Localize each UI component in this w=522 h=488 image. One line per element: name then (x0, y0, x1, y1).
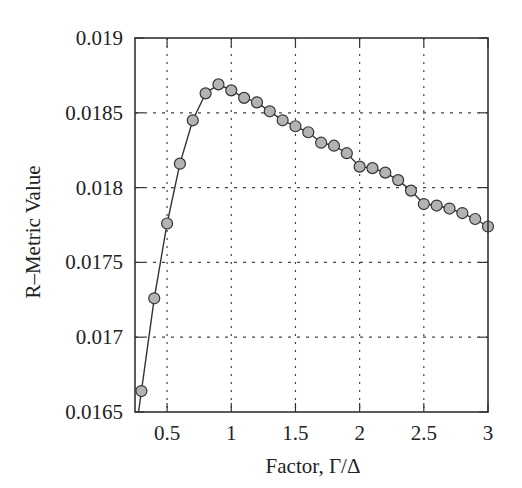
data-point-marker (444, 203, 455, 214)
y-tick-label: 0.019 (76, 26, 123, 50)
plot-frame (135, 38, 488, 412)
data-point-marker (393, 175, 404, 186)
data-point-marker (470, 214, 481, 225)
x-tick-label: 2.5 (411, 421, 437, 445)
r-metric-chart: 0.511.522.53 0.01650.0170.01750.0180.018… (0, 0, 522, 488)
grid-lines (135, 38, 488, 412)
y-tick-label: 0.0175 (65, 250, 123, 274)
data-point-marker (149, 293, 160, 304)
y-tick-label: 0.0185 (65, 101, 123, 125)
data-point-marker (316, 137, 327, 148)
data-point-marker (200, 88, 211, 99)
data-point-marker (174, 158, 185, 169)
x-tick-label: 2 (354, 421, 365, 445)
x-tick-label: 1.5 (282, 421, 308, 445)
y-tick-label: 0.0165 (65, 400, 123, 424)
data-point-marker (405, 185, 416, 196)
data-point-marker (277, 115, 288, 126)
data-point-marker (328, 140, 339, 151)
axis-ticks (135, 38, 488, 412)
data-point-marker (367, 163, 378, 174)
y-tick-label: 0.017 (76, 325, 123, 349)
data-point-marker (418, 199, 429, 210)
y-axis-title: R–Metric Value (21, 165, 45, 298)
x-tick-label: 1 (226, 421, 237, 445)
x-tick-label: 0.5 (154, 421, 180, 445)
data-point-marker (162, 218, 173, 229)
data-point-marker (226, 85, 237, 96)
data-point-marker (341, 148, 352, 159)
data-point-marker (354, 161, 365, 172)
data-point-marker (290, 121, 301, 132)
data-point-marker (431, 200, 442, 211)
data-point-marker (264, 106, 275, 117)
data-point-marker (303, 127, 314, 138)
y-tick-label: 0.018 (76, 176, 123, 200)
x-tick-labels: 0.511.522.53 (154, 421, 493, 445)
x-axis-title: Factor, Γ/Δ (266, 454, 361, 478)
data-point-marker (136, 386, 147, 397)
data-point-marker (457, 208, 468, 219)
data-point-marker (239, 92, 250, 103)
data-point-marker (251, 97, 262, 108)
data-point-marker (187, 115, 198, 126)
data-series (136, 79, 494, 412)
x-tick-label: 3 (483, 421, 494, 445)
data-point-marker (213, 79, 224, 90)
data-point-marker (380, 167, 391, 178)
y-tick-labels: 0.01650.0170.01750.0180.01850.019 (65, 26, 123, 424)
